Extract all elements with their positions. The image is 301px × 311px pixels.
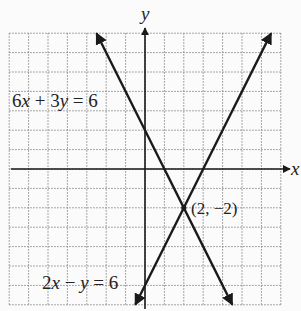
equation-label-1: 6x + 3y = 6 [12,90,98,111]
coordinate-graph: x y 6x + 3y = 6 2x − y = 6 (2, −2) [0,0,301,311]
x-axis-label: x [290,158,300,179]
equation-label-2: 2x − y = 6 [42,272,118,293]
intersection-label: (2, −2) [191,199,237,218]
y-axis-label: y [139,3,150,24]
intersection-point [181,205,186,210]
